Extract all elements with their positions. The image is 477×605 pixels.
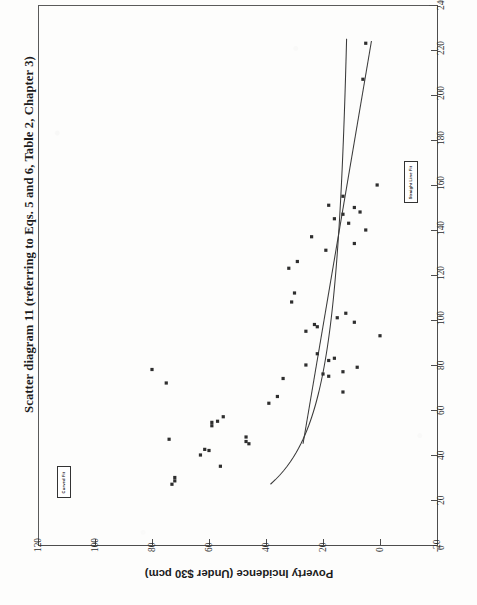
fit-curves	[270, 39, 371, 485]
data-point	[341, 195, 344, 198]
data-point	[353, 206, 356, 209]
data-point	[321, 372, 324, 375]
straight-fit-line	[303, 41, 371, 444]
data-point	[267, 402, 270, 405]
data-point	[244, 440, 247, 443]
data-point	[324, 249, 327, 252]
curved-fit-line	[270, 39, 346, 485]
data-point	[293, 291, 296, 294]
data-point	[247, 442, 250, 445]
data-point	[376, 183, 379, 186]
data-point	[173, 476, 176, 479]
data-point	[207, 449, 210, 452]
data-point	[327, 359, 330, 362]
data-point	[304, 330, 307, 333]
data-point	[310, 235, 313, 238]
data-point	[333, 357, 336, 360]
data-point	[244, 435, 247, 438]
data-point	[287, 267, 290, 270]
data-point	[353, 321, 356, 324]
data-point	[333, 217, 336, 220]
data-point	[304, 363, 307, 366]
data-point	[341, 213, 344, 216]
data-point	[210, 421, 213, 424]
data-point	[378, 334, 381, 337]
data-point	[316, 352, 319, 355]
data-point	[358, 210, 361, 213]
data-point	[168, 438, 171, 441]
data-point	[296, 260, 299, 263]
data-point	[290, 300, 293, 303]
data-point	[316, 325, 319, 328]
data-points	[150, 42, 381, 486]
data-point	[210, 424, 213, 427]
data-point	[150, 368, 153, 371]
data-point	[327, 204, 330, 207]
data-point	[341, 370, 344, 373]
figure-page: Scatter diagram 11 (referring to Eqs. 5 …	[0, 0, 477, 605]
data-point	[313, 323, 316, 326]
data-point	[222, 415, 225, 418]
data-point	[170, 483, 173, 486]
data-point	[216, 420, 219, 423]
data-point	[199, 453, 202, 456]
data-point	[276, 395, 279, 398]
data-point	[364, 228, 367, 231]
data-point	[203, 448, 206, 451]
data-point	[282, 377, 285, 380]
data-point	[173, 479, 176, 482]
scatter-plot-canvas	[0, 0, 477, 605]
data-point	[356, 366, 359, 369]
data-point	[336, 316, 339, 319]
data-point	[341, 390, 344, 393]
data-point	[361, 78, 364, 81]
data-point	[344, 312, 347, 315]
data-point	[353, 242, 356, 245]
data-point	[327, 375, 330, 378]
data-point	[347, 222, 350, 225]
data-point	[219, 465, 222, 468]
data-point	[364, 42, 367, 45]
data-point	[165, 381, 168, 384]
